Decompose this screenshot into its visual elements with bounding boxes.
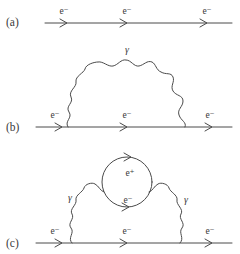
panel-b: (b) γ e⁻ e⁻ e⁻ [6, 44, 232, 134]
diagram-canvas: (a) e⁻ e⁻ e⁻ (b) γ e⁻ [0, 0, 240, 254]
panel-c-photon-wave-left [70, 183, 104, 243]
panel-c: (c) e⁺ e⁻ γ γ e⁻ e⁻ e⁻ [6, 153, 232, 250]
panel-a-electron-label-1: e⁻ [59, 6, 68, 16]
panel-b-label: (b) [6, 121, 20, 134]
panel-a-electron-label-3: e⁻ [202, 6, 211, 16]
panel-c-electron-label-1: e⁻ [50, 226, 59, 236]
panel-c-photon-label-left: γ [68, 192, 73, 203]
panel-c-electron-label-2: e⁻ [122, 226, 131, 236]
panel-b-electron-label-2: e⁻ [122, 110, 131, 120]
panel-b-photon-label: γ [125, 44, 130, 55]
panel-c-label: (c) [6, 237, 19, 250]
panel-a: (a) e⁻ e⁻ e⁻ [6, 6, 232, 29]
panel-c-photon-wave-right [149, 183, 183, 243]
panel-b-electron-label-1: e⁻ [50, 110, 59, 120]
panel-c-positron-label: e⁺ [125, 168, 134, 178]
panel-c-electron-label-3: e⁻ [205, 226, 214, 236]
panel-b-electron-label-3: e⁻ [205, 110, 214, 120]
panel-a-electron-label-2: e⁻ [122, 6, 131, 16]
panel-c-photon-label-right: γ [184, 194, 189, 205]
panel-a-label: (a) [6, 16, 19, 29]
feynman-diagram-figure: (a) e⁻ e⁻ e⁻ (b) γ e⁻ [0, 0, 240, 254]
panel-c-loop-electron-label: e⁻ [123, 195, 132, 205]
